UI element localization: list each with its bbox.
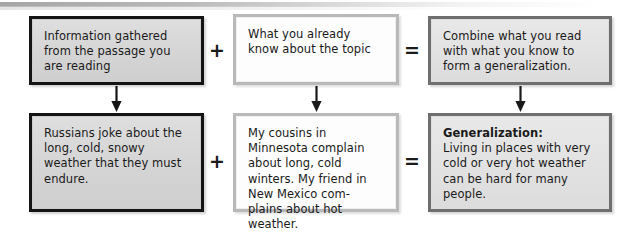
example-box-prior-knowledge-text: My cousins in Minnesota complain about l… (236, 116, 396, 209)
concept-box-result: Combine what you read with what you know… (428, 16, 612, 85)
generalization-label: Generalization: (443, 126, 597, 141)
plus-operator-row1: + (206, 41, 228, 60)
concept-box-prior-knowledge: What you already know about the topic (233, 14, 399, 85)
down-arrow-column-1 (110, 86, 123, 113)
concept-box-source: Information gathered from the passage yo… (29, 16, 204, 85)
down-arrow-column-2 (310, 86, 323, 113)
example-box-prior-knowledge: My cousins in Minnesota complain about l… (233, 113, 399, 212)
down-arrow-column-3 (514, 86, 527, 113)
example-box-source-text: Russians joke about the long, cold, snow… (32, 116, 201, 209)
example-box-source: Russians joke about the long, cold, snow… (29, 113, 204, 212)
example-box-result: Generalization: Living in places with ve… (428, 113, 612, 212)
example-box-result-body: Generalization: Living in places with ve… (431, 116, 609, 209)
concept-box-prior-knowledge-text: What you already know about the topic (236, 17, 396, 82)
equals-operator-row2: = (401, 152, 423, 171)
generalization-diagram: Information gathered from the passage yo… (0, 0, 621, 233)
plus-operator-row2: + (206, 152, 228, 171)
concept-box-result-text: Combine what you read with what you know… (431, 19, 609, 82)
example-box-result-text: Living in places with very cold or very … (443, 141, 590, 201)
concept-box-source-text: Information gathered from the passage yo… (32, 19, 201, 82)
equals-operator-row1: = (401, 41, 423, 60)
